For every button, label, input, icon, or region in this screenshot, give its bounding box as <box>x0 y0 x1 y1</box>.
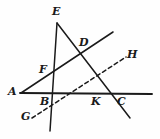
line-e-b <box>50 23 57 131</box>
point-label-c: C <box>117 96 126 107</box>
line-a-c <box>20 93 152 94</box>
geometry-diagram: A B C D E F G H K <box>0 0 160 139</box>
point-label-k: K <box>91 96 101 107</box>
point-label-a: A <box>8 86 17 97</box>
point-label-e: E <box>52 6 60 17</box>
point-label-g: G <box>21 111 30 122</box>
point-label-h: H <box>127 49 137 60</box>
point-label-d: D <box>79 37 89 48</box>
line-a-f-d <box>21 32 113 93</box>
point-label-f: F <box>39 64 47 75</box>
point-label-b: B <box>40 96 49 107</box>
